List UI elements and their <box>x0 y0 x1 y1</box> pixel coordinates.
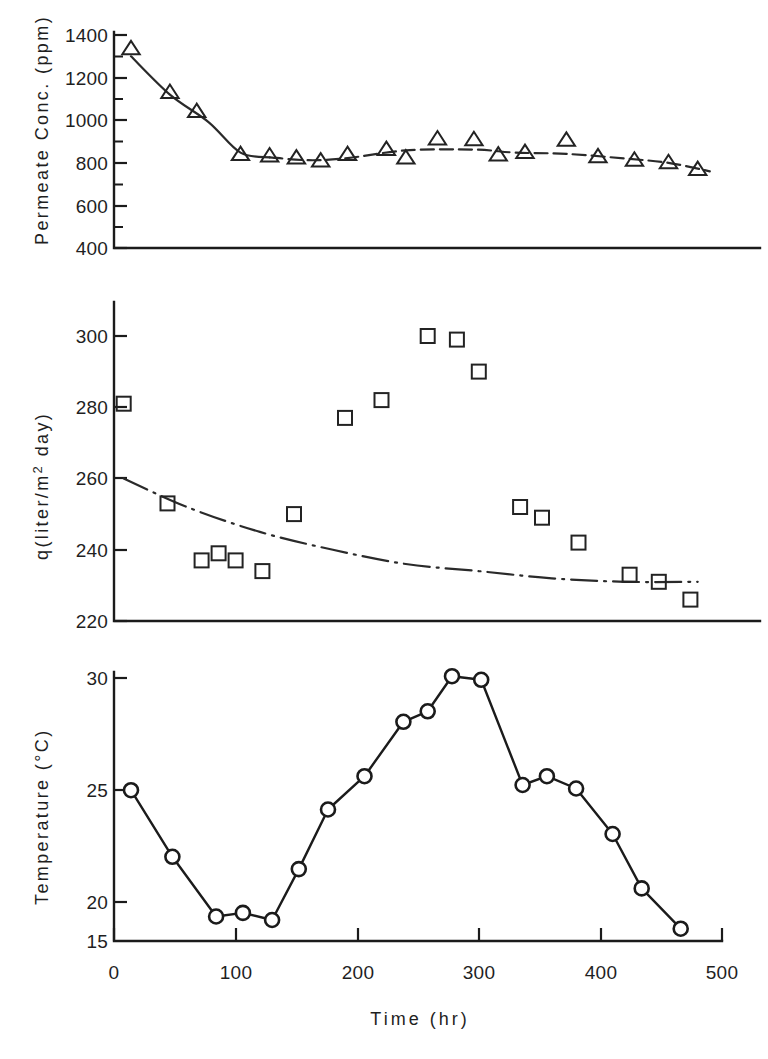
data-point-square <box>229 553 243 567</box>
data-point-square <box>195 553 209 567</box>
data-point-triangle <box>429 131 446 144</box>
bottom-y-title-degree-icon: ° <box>32 752 52 762</box>
data-point-circle <box>292 862 306 876</box>
data-point-circle <box>358 769 372 783</box>
data-point-triangle <box>516 145 533 158</box>
figure-container: Permeate Conc. (ppm) 1400 1200 <box>0 0 768 1059</box>
middle-ytick-300: 300 <box>76 326 108 347</box>
panel-top: Permeate Conc. (ppm) 1400 1200 <box>32 15 760 259</box>
middle-y-title-superscript: 2 <box>30 464 45 474</box>
data-point-circle <box>124 783 138 797</box>
panel-bottom: Temperature (°C) 30 25 20 15 0 <box>32 668 738 1029</box>
data-point-square <box>623 568 637 582</box>
data-point-circle <box>445 669 459 683</box>
middle-panel-y-axis-title: q(liter/m2 day) <box>30 412 52 560</box>
data-point-square <box>535 511 549 525</box>
data-point-triangle <box>261 148 278 161</box>
bottom-panel-y-axis-title: Temperature (°C) <box>32 728 52 905</box>
data-point-triangle <box>288 150 305 163</box>
middle-panel-axis-lines <box>114 302 760 621</box>
data-point-circle <box>569 782 583 796</box>
xtick-500: 500 <box>706 962 738 983</box>
data-point-circle <box>540 769 554 783</box>
data-point-circle <box>209 910 223 924</box>
data-point-circle <box>474 673 488 687</box>
top-ytick-800: 800 <box>76 153 108 174</box>
data-point-square <box>287 507 301 521</box>
data-point-triangle <box>397 150 414 163</box>
three-panel-time-series-figure: Permeate Conc. (ppm) 1400 1200 <box>0 0 768 1059</box>
data-point-square <box>255 564 269 578</box>
data-point-triangle <box>122 41 139 54</box>
data-point-triangle <box>465 132 482 145</box>
data-point-circle <box>265 913 279 927</box>
data-point-square <box>513 500 527 514</box>
top-panel-minor-ticks <box>114 57 123 228</box>
data-point-circle <box>165 850 179 864</box>
data-point-square <box>450 333 464 347</box>
bottom-ytick-30: 30 <box>86 668 108 689</box>
xtick-400: 400 <box>585 962 617 983</box>
xtick-200: 200 <box>342 962 374 983</box>
top-panel-trend-line-solid <box>131 56 270 157</box>
top-ytick-600: 600 <box>76 196 108 217</box>
middle-ytick-280: 280 <box>76 397 108 418</box>
top-ytick-400: 400 <box>76 238 108 259</box>
top-panel-axis-lines <box>114 32 760 248</box>
top-ytick-1400: 1400 <box>65 25 108 46</box>
data-point-circle <box>321 803 335 817</box>
middle-panel-trend-line <box>124 479 698 583</box>
data-point-circle <box>396 715 410 729</box>
data-point-square <box>375 393 389 407</box>
bottom-ytick-20: 20 <box>86 892 108 913</box>
data-point-square <box>117 397 131 411</box>
data-point-circle <box>516 778 530 792</box>
middle-y-title-post: day) <box>32 412 52 464</box>
middle-ytick-220: 220 <box>76 611 108 632</box>
data-point-square <box>421 329 435 343</box>
data-point-circle <box>674 922 688 936</box>
x-axis-title: Time (hr) <box>370 1009 469 1029</box>
data-point-triangle <box>558 132 575 145</box>
top-ytick-1200: 1200 <box>65 68 108 89</box>
middle-y-title-pre: q(liter/m <box>32 473 52 560</box>
top-panel-data-markers <box>122 41 706 175</box>
data-point-square <box>472 365 486 379</box>
data-point-square <box>572 536 586 550</box>
top-panel-y-axis-title: Permeate Conc. (ppm) <box>32 15 52 245</box>
data-point-square <box>212 546 226 560</box>
bottom-y-title-post: C) <box>32 728 52 752</box>
data-point-triangle <box>490 147 507 160</box>
xtick-100: 100 <box>220 962 252 983</box>
middle-ytick-260: 260 <box>76 468 108 489</box>
data-point-circle <box>236 906 250 920</box>
data-point-square <box>338 411 352 425</box>
x-axis-ticks <box>114 928 722 941</box>
bottom-panel-data-markers <box>124 669 688 936</box>
middle-ytick-240: 240 <box>76 540 108 561</box>
bottom-ytick-25: 25 <box>86 780 108 801</box>
bottom-ytick-15: 15 <box>86 931 108 952</box>
data-point-circle <box>421 704 435 718</box>
top-ytick-1000: 1000 <box>65 110 108 131</box>
data-point-square <box>683 593 697 607</box>
xtick-0: 0 <box>109 962 120 983</box>
data-point-triangle <box>660 155 677 168</box>
xtick-300: 300 <box>463 962 495 983</box>
bottom-y-title-pre: Temperature ( <box>32 762 52 905</box>
data-point-circle <box>606 827 620 841</box>
data-point-circle <box>635 881 649 895</box>
panel-middle: q(liter/m2 day) 300 280 260 240 220 <box>30 302 760 632</box>
